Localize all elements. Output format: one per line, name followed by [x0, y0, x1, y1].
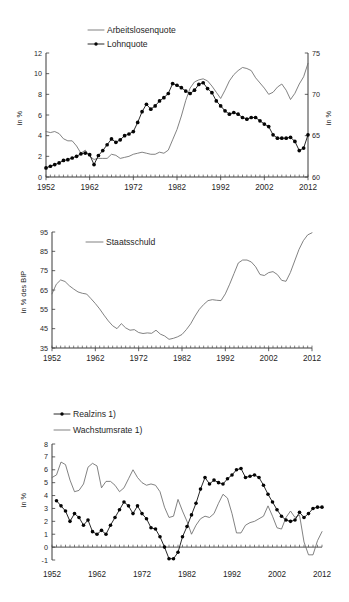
- data-point: [239, 467, 243, 471]
- data-point: [79, 152, 83, 156]
- svg-text:1962: 1962: [88, 570, 107, 579]
- svg-text:1982: 1982: [178, 570, 197, 579]
- data-point: [235, 468, 239, 472]
- legend-label-wachstumsrate: Wachstumsrate 1): [73, 425, 143, 435]
- data-point: [153, 104, 157, 108]
- data-point: [262, 483, 266, 487]
- data-point: [109, 523, 113, 527]
- data-point: [289, 135, 293, 139]
- svg-text:2012: 2012: [299, 183, 318, 192]
- data-point: [62, 159, 66, 163]
- svg-text:12: 12: [34, 49, 42, 58]
- data-point: [254, 116, 258, 120]
- data-point: [105, 143, 109, 147]
- svg-text:55: 55: [40, 305, 48, 314]
- data-point: [280, 136, 284, 140]
- data-point: [100, 529, 104, 533]
- data-point: [97, 154, 101, 158]
- data-point: [55, 499, 59, 503]
- data-point: [223, 109, 227, 113]
- svg-text:2002: 2002: [260, 354, 279, 363]
- svg-text:1972: 1972: [124, 183, 143, 192]
- data-point: [271, 500, 275, 504]
- svg-text:5: 5: [44, 478, 48, 487]
- svg-text:2012: 2012: [313, 570, 332, 579]
- legend-label-staatsschuld: Staatsschuld: [106, 237, 155, 247]
- data-point: [154, 527, 158, 531]
- svg-text:1992: 1992: [223, 570, 242, 579]
- legend-label-lohnquote: Lohnquote: [107, 39, 148, 49]
- data-point: [136, 121, 140, 125]
- svg-text:1962: 1962: [81, 183, 100, 192]
- data-point: [95, 532, 99, 536]
- svg-text:4: 4: [38, 131, 42, 140]
- data-point: [289, 520, 293, 524]
- data-point: [302, 516, 306, 520]
- data-point: [199, 487, 203, 491]
- data-point: [284, 136, 288, 140]
- data-point: [166, 92, 170, 96]
- svg-text:45: 45: [40, 324, 48, 333]
- data-point: [311, 507, 315, 511]
- y-axis-title: in %: [19, 492, 28, 507]
- legend-label-realzins: Realzins 1): [73, 409, 116, 419]
- data-point: [127, 132, 131, 136]
- data-point: [145, 102, 149, 106]
- data-point: [228, 112, 232, 116]
- data-point: [185, 525, 189, 529]
- data-point: [271, 133, 275, 137]
- data-point: [92, 163, 96, 167]
- data-point: [244, 476, 248, 480]
- svg-text:95: 95: [40, 228, 48, 237]
- svg-text:8: 8: [44, 440, 48, 449]
- data-point: [276, 136, 280, 140]
- data-point: [298, 511, 302, 515]
- chart-panel-public-debt: Staatsschuld3545556575859519521962197219…: [0, 200, 349, 400]
- chart-realzins-wachstumsrate: Realzins 1)Wachstumsrate 1)-101234567819…: [0, 400, 349, 602]
- svg-text:35: 35: [40, 344, 48, 353]
- chart-legend: Staatsschuld: [86, 237, 155, 247]
- svg-text:1972: 1972: [133, 570, 152, 579]
- data-point: [86, 518, 90, 522]
- data-point: [206, 87, 210, 91]
- data-point: [208, 482, 212, 486]
- svg-text:65: 65: [40, 286, 48, 295]
- data-point: [180, 86, 184, 90]
- y-axis-title: in % des BIP: [19, 271, 28, 313]
- svg-text:10: 10: [34, 69, 42, 78]
- svg-text:1: 1: [44, 530, 48, 539]
- data-point: [320, 505, 324, 509]
- series-arbeitslosenquote: [46, 63, 308, 159]
- data-point: [267, 125, 271, 129]
- data-point: [158, 99, 162, 103]
- svg-text:4: 4: [44, 491, 48, 500]
- data-point: [176, 550, 180, 554]
- data-point: [83, 151, 87, 155]
- y-axis-title-left: in %: [15, 110, 24, 125]
- data-point: [284, 518, 288, 522]
- data-point: [127, 504, 131, 508]
- data-point: [123, 134, 127, 138]
- svg-text:60: 60: [312, 173, 320, 182]
- data-point: [73, 512, 77, 516]
- data-point: [53, 163, 57, 167]
- svg-text:1992: 1992: [212, 183, 231, 192]
- series-wachstumsrate: [52, 462, 322, 555]
- data-point: [91, 530, 95, 534]
- legend-swatch-lohnquote: [88, 42, 104, 45]
- chart-arbeitslosenquote-lohnquote: ArbeitslosenquoteLohnquote02468101260657…: [0, 0, 349, 200]
- data-point: [68, 520, 72, 524]
- svg-text:3: 3: [44, 504, 48, 513]
- data-point: [140, 512, 144, 516]
- svg-text:6: 6: [38, 111, 42, 120]
- svg-text:2002: 2002: [268, 570, 287, 579]
- data-point: [140, 110, 144, 114]
- data-point: [158, 535, 162, 539]
- data-point: [226, 477, 230, 481]
- data-point: [302, 146, 306, 150]
- svg-text:2002: 2002: [255, 183, 274, 192]
- data-point: [275, 508, 279, 512]
- data-point: [293, 140, 297, 144]
- data-point: [118, 138, 122, 142]
- data-point: [188, 92, 192, 96]
